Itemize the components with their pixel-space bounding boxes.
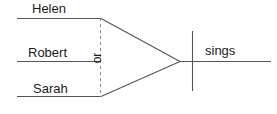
subject-label-sarah: Sarah <box>33 82 68 95</box>
predicate-label-sings: sings <box>205 44 235 57</box>
connector-line-1 <box>101 19 180 62</box>
sentence-diagram: Helen Robert Sarah or sings <box>0 0 277 114</box>
subject-label-helen: Helen <box>32 2 66 15</box>
subject-label-robert: Robert <box>28 46 67 59</box>
conjunction-label-or: or <box>91 53 103 64</box>
connector-line-3 <box>101 62 180 97</box>
